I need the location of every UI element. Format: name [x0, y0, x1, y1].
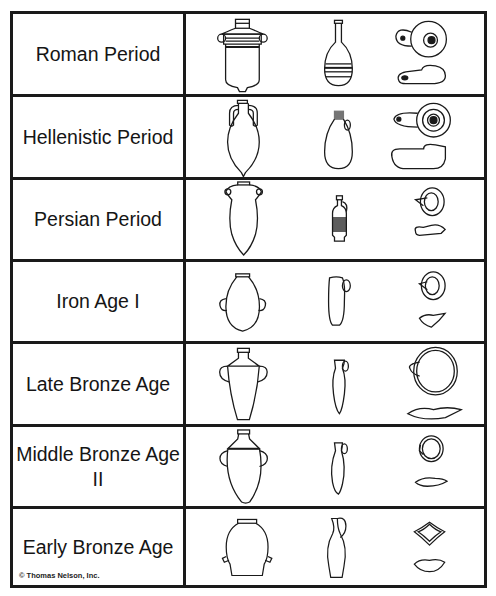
row-late-bronze-age: Late Bronze Age	[13, 341, 484, 424]
row-early-bronze-age: Early Bronze Age © Thomas Nelson, Inc.	[13, 506, 484, 585]
pottery-illustrations	[186, 180, 484, 259]
juglet-icon	[329, 277, 351, 325]
late-bronze-pottery-icon	[186, 344, 484, 424]
roman-pottery-icon	[186, 14, 484, 94]
oil-lamp-icon	[414, 522, 444, 571]
storage-jar-icon	[220, 348, 268, 419]
storage-jar-icon	[222, 519, 271, 575]
oil-lamp-icon	[396, 21, 446, 83]
pottery-illustrations	[186, 344, 484, 424]
row-roman-period: Roman Period	[13, 14, 484, 94]
hellenistic-pottery-icon	[186, 97, 484, 177]
lekythos-icon	[333, 196, 347, 241]
iron-age-pottery-icon	[186, 262, 484, 341]
pottery-chronology-chart: Roman Period	[10, 11, 487, 588]
period-label: Hellenistic Period	[13, 97, 183, 177]
row-middle-bronze-age-ii: Middle Bronze Age II	[13, 424, 484, 506]
middle-bronze-pottery-icon	[186, 427, 484, 506]
row-iron-age-i: Iron Age I	[13, 259, 484, 341]
period-label: Middle Bronze Age II	[13, 427, 183, 506]
pottery-illustrations	[186, 262, 484, 341]
juglet-icon	[325, 20, 353, 85]
juglet-icon	[332, 443, 348, 494]
juglet-icon	[325, 111, 353, 168]
pottery-illustrations	[186, 14, 484, 94]
amphora-icon	[228, 100, 260, 176]
storage-jar-icon	[220, 430, 267, 503]
oil-lamp-icon	[415, 188, 445, 235]
storage-jar-icon	[225, 182, 263, 255]
copyright-notice: © Thomas Nelson, Inc.	[19, 571, 100, 580]
row-persian-period: Persian Period	[13, 177, 484, 259]
oil-lamp-icon	[419, 272, 445, 327]
pottery-illustrations	[186, 97, 484, 177]
juglet-icon	[333, 360, 349, 413]
early-bronze-pottery-icon	[186, 509, 484, 585]
oil-lamp-icon	[392, 103, 451, 168]
pottery-illustrations	[186, 427, 484, 506]
jug-icon	[328, 518, 346, 577]
row-hellenistic-period: Hellenistic Period	[13, 94, 484, 177]
period-label: Iron Age I	[13, 262, 183, 341]
storage-jar-icon	[218, 19, 268, 91]
period-label: Persian Period	[13, 180, 183, 259]
storage-jar-icon	[220, 274, 266, 331]
oil-lamp-icon	[415, 436, 447, 486]
period-label: Roman Period	[13, 14, 183, 94]
persian-pottery-icon	[186, 180, 484, 259]
oil-lamp-icon	[408, 347, 461, 419]
pottery-illustrations	[186, 509, 484, 585]
period-label: Late Bronze Age	[13, 344, 183, 424]
